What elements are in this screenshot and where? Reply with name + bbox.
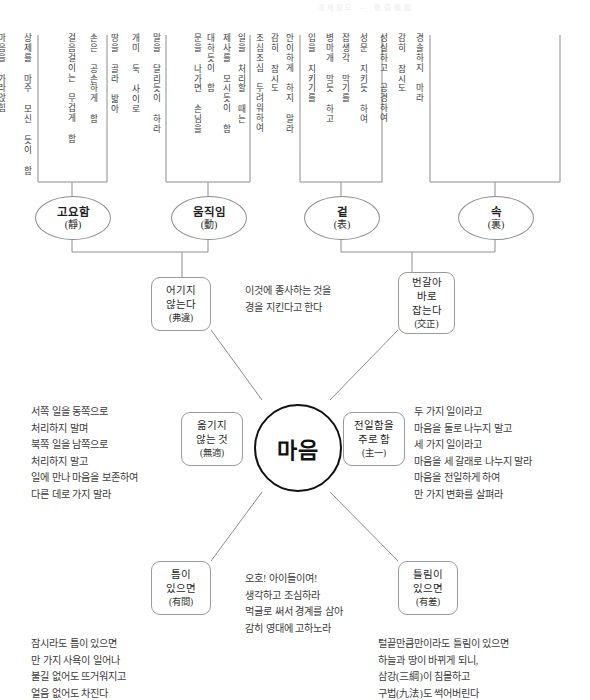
vtext-3-0: 안이하게 하지 말라 bbox=[281, 33, 296, 134]
paragraph-middle-right: 두 가지 일이라고 마음을 둘로 나누지 말고 세 가지 일이라고 마음을 세 … bbox=[414, 404, 532, 503]
vtext-2-3: 손은 공손하게 함 bbox=[85, 33, 100, 124]
box-having-error-hanja: (有差) bbox=[416, 596, 440, 608]
top-cut-text: 경재잠도 — 敬齋箴圖 bbox=[318, 2, 414, 12]
paragraph-bottom-left: 잠시라도 틈이 있으면 만 가지 사욕이 일어나 불길 없어도 뜨거워지고 얼음… bbox=[31, 636, 126, 700]
vtext-4-6: 입을 지키기를 bbox=[303, 33, 318, 103]
box-not-violating[interactable]: 어기지 않는다 (弗違) bbox=[151, 277, 211, 331]
diagram-canvas: 경재잠도 — 敬齋箴圖 bbox=[0, 0, 590, 700]
vtext-4-3: 성문 지키듯 하여 bbox=[355, 33, 370, 124]
box-having-gap-label: 틈이 있으면 bbox=[166, 568, 196, 596]
vtext-4-0: 경솔하지 마라 bbox=[411, 33, 426, 103]
box-having-gap[interactable]: 틈이 있으면 (有間) bbox=[151, 561, 211, 615]
box-not-shifting[interactable]: 옮기지 않는 것 (無適) bbox=[181, 412, 243, 466]
node-inner-hanja: (裏) bbox=[488, 219, 505, 230]
node-stillness-label: 고요함 bbox=[57, 206, 90, 219]
node-stillness[interactable]: 고요함 (靜) bbox=[35, 196, 111, 240]
vtext-4-4: 잡생각 막기를 bbox=[337, 33, 352, 103]
paragraph-middle-left: 서쪽 일을 동쪽으로 처리하지 말며 북쪽 일을 남쪽으로 처리하지 말고 일에… bbox=[31, 404, 138, 503]
node-stillness-hanja: (靜) bbox=[65, 219, 82, 230]
node-outer-label: 겉 bbox=[337, 206, 348, 219]
vtext-4-5: 병마개 막듯 하고 bbox=[321, 33, 336, 124]
box-not-violating-hanja: (弗違) bbox=[169, 312, 193, 324]
box-mutually-correcting[interactable]: 번갈아 바로 잡는다 (交正) bbox=[398, 272, 455, 334]
node-outer-hanja: (表) bbox=[334, 219, 351, 230]
vtext-3-3: 일을 처리할 때는 bbox=[233, 33, 248, 124]
box-having-error-label: 틀림이 있으면 bbox=[413, 568, 443, 596]
paragraph-top-center: 이것에 종사하는 것을 경을 지킨다고 한다 bbox=[245, 283, 331, 316]
box-unity-focus-hanja: (主一) bbox=[362, 447, 386, 459]
node-movement-hanja: (動) bbox=[201, 219, 218, 230]
box-having-error[interactable]: 틀림이 있으면 (有差) bbox=[398, 561, 458, 615]
vtext-1-0: 상제를 마주 모신 듯이 함 bbox=[19, 33, 34, 176]
node-inner-label: 속 bbox=[491, 206, 502, 219]
vtext-2-4: 걸음걸이는 무겁게 함 bbox=[63, 33, 78, 144]
vtext-2-0: 말을 달리듯이 하라 bbox=[148, 33, 163, 134]
vtext-4-2: 성실하고 공경하여 bbox=[375, 33, 390, 123]
paragraph-bottom-right: 털끝만큼만이라도 틀림이 있으면 하늘과 땅이 바뀌게 되니, 삼강(三綱)이 … bbox=[378, 636, 509, 700]
vtext-3-1: 감히 잠시도 bbox=[266, 33, 281, 93]
diagonal-top-right bbox=[330, 330, 398, 400]
vtext-3-2: 조심조심 두려워하여 bbox=[251, 33, 266, 133]
node-inner[interactable]: 속 (裏) bbox=[458, 196, 534, 240]
vtext-2-2: 땅을 골라 밟아 bbox=[106, 33, 121, 114]
box-having-gap-hanja: (有間) bbox=[169, 596, 193, 608]
node-movement-label: 움직임 bbox=[193, 206, 226, 219]
diagonal-bottom-left bbox=[211, 492, 262, 561]
bracket-outer-inner bbox=[341, 238, 495, 252]
diagonal-bottom-right bbox=[330, 492, 398, 561]
box-not-shifting-hanja: (無適) bbox=[200, 447, 224, 459]
node-movement[interactable]: 움직임 (動) bbox=[171, 196, 247, 240]
vtext-4-1: 감히 잠시도 bbox=[393, 33, 408, 93]
center-node-mind[interactable]: 마음 bbox=[254, 404, 342, 492]
vtext-3-6: 문을 나가면 손님을 bbox=[189, 33, 204, 134]
box-unity-focus-label: 전일함을 주로 함 bbox=[354, 419, 394, 447]
diagonal-top-left bbox=[211, 330, 262, 400]
vtext-3-4: 제사를 모시듯이 함 bbox=[218, 33, 233, 134]
box-not-shifting-label: 옮기지 않는 것 bbox=[196, 419, 229, 447]
node-outer[interactable]: 겉 (表) bbox=[304, 196, 380, 240]
box-mutually-correcting-hanja: (交正) bbox=[414, 318, 438, 330]
box-unity-focus[interactable]: 전일함을 주로 함 (主一) bbox=[343, 412, 405, 466]
box-mutually-correcting-label: 번갈아 바로 잡는다 bbox=[412, 276, 442, 318]
center-node-label: 마음 bbox=[277, 432, 319, 464]
box-not-violating-label: 어기지 않는다 bbox=[166, 284, 196, 312]
vtext-1-1: 마음을 가라앉힘 bbox=[0, 33, 8, 113]
vtext-2-1: 개미 둑 사이로 bbox=[127, 33, 142, 114]
paragraph-bottom-center: 오호! 아이들이여! 생각하고 조심하라 먹글로 써서 경계를 삼아 감히 영대… bbox=[245, 571, 343, 637]
vtext-3-5: 대하듯이 함 bbox=[202, 33, 217, 93]
bracket-group-4 bbox=[430, 35, 560, 182]
bracket-static-dynamic bbox=[72, 238, 208, 252]
